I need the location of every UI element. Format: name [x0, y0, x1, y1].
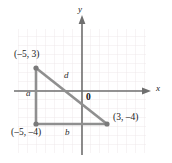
point-label-top-left: (–5, 3) [14, 50, 39, 60]
vertex-point-bottom-left [33, 121, 38, 126]
origin-label: 0 [86, 93, 91, 103]
segment-label-b: b [65, 128, 70, 137]
vertex-point-top-left [33, 65, 38, 70]
segment-label-d: d [64, 71, 69, 80]
y-axis-label: y [78, 5, 82, 14]
point-label-bottom-left: (–5, –4) [11, 128, 41, 138]
x-axis-arrow-icon [142, 88, 151, 95]
point-label-bottom-right: (3, –4) [113, 113, 138, 123]
coordinate-plane-figure: (–5, 3) (–5, –4) (3, –4) a b d 0 x y [0, 0, 172, 163]
y-axis-arrow-icon [79, 15, 86, 24]
plot-canvas [0, 0, 172, 163]
vertex-point-bottom-right [104, 121, 109, 126]
x-axis-label: x [156, 84, 160, 93]
segment-label-a: a [26, 89, 31, 98]
